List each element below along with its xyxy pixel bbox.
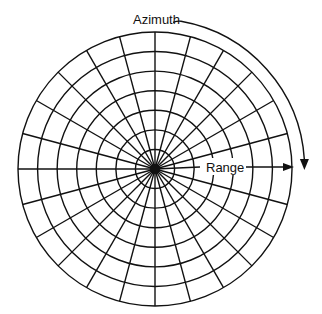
azimuth-spoke [155,72,252,169]
azimuth-spoke [155,169,252,266]
center-hub [150,164,160,174]
azimuth-label: Azimuth [133,12,180,27]
azimuth-spoke [23,169,155,204]
azimuth-arrowhead-icon [300,159,309,170]
azimuth-spoke [155,37,190,169]
azimuth-arc-arrow [173,21,304,160]
azimuth-spoke [23,134,155,169]
azimuth-spoke [120,169,155,301]
azimuth-spoke [58,72,155,169]
polar-diagram: Azimuth Range [0,0,322,314]
azimuth-spoke [120,37,155,169]
range-label: Range [206,160,244,175]
azimuth-spoke [58,169,155,266]
azimuth-spoke [155,169,190,301]
